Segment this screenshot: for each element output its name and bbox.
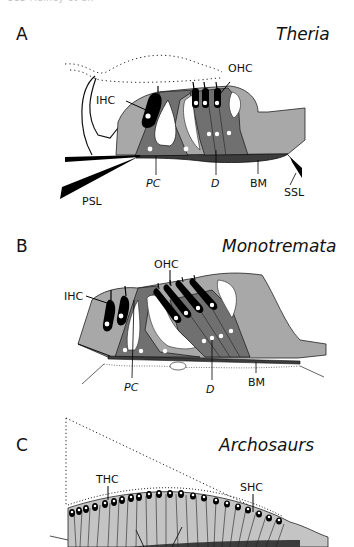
label-d-a: D	[211, 177, 219, 190]
label-bm-a: BM	[250, 177, 267, 190]
panel-b-organ-of-corti: IHC OHC PC D BM	[64, 258, 326, 396]
label-shc: SHC	[240, 481, 263, 494]
primary-spiral-lamina	[60, 156, 140, 199]
outer-hair-cells	[192, 82, 221, 108]
label-ohc-a: OHC	[228, 62, 253, 75]
label-ssl-a: SSL	[284, 186, 305, 199]
secondary-spiral-lamina	[290, 157, 302, 178]
panel-a-organ-of-corti: IHC OHC PC D BM SSL PSL	[60, 55, 305, 208]
label-pc-a: PC	[146, 177, 161, 190]
label-thc: THC	[95, 473, 119, 486]
papilla-body	[68, 492, 328, 547]
label-psl-a: PSL	[82, 195, 103, 208]
label-d-b: D	[206, 383, 214, 396]
label-ihc-b: IHC	[64, 290, 84, 303]
label-bm-b: BM	[248, 376, 265, 389]
tectorial-membrane-lower	[70, 70, 222, 82]
diagram-canvas: IHC OHC PC D BM SSL PSL	[0, 0, 354, 547]
label-ihc-a: IHC	[96, 94, 116, 107]
tectorial-membrane-outline	[65, 55, 222, 73]
tympanic-layer-b	[104, 364, 300, 368]
panel-c-basilar-papilla: THC SHC	[50, 418, 328, 547]
label-ohc-b: OHC	[154, 258, 179, 271]
label-pc-b: PC	[124, 381, 139, 394]
spiral-limbus-outline	[82, 76, 118, 155]
blood-vessel-b	[170, 362, 186, 370]
